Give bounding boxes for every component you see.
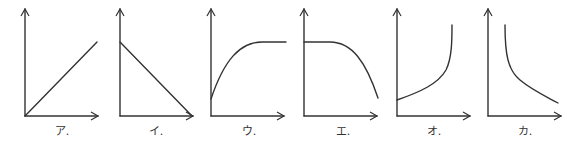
graph-label-ka: カ. [518, 122, 533, 138]
graphs-figure [0, 0, 579, 146]
curve [25, 42, 97, 116]
graph-label-e: エ. [336, 122, 351, 138]
graph-label-i: イ. [149, 122, 164, 138]
graph-a [25, 9, 98, 116]
curve [304, 42, 378, 98]
graph-ka [488, 9, 561, 116]
curve [120, 42, 192, 116]
graph-label-o: オ. [427, 122, 442, 138]
graph-e [304, 9, 378, 116]
curve [397, 25, 452, 100]
graph-label-u: ウ. [242, 122, 257, 138]
graph-u [211, 9, 286, 116]
graph-label-a: ア. [55, 122, 70, 138]
curve [211, 42, 286, 99]
graph-i [120, 9, 193, 116]
curve [505, 25, 558, 103]
graph-o [397, 9, 470, 116]
